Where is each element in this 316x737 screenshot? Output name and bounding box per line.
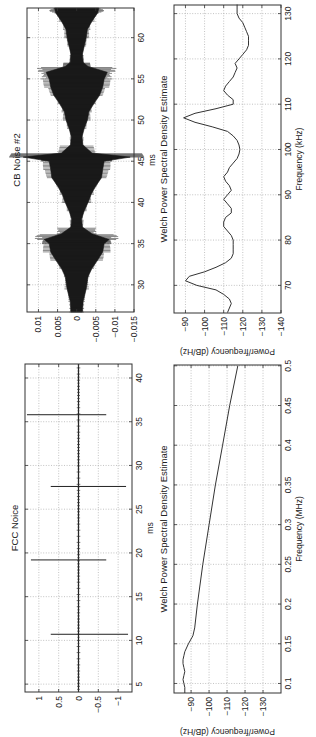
- x-axis-label: ms: [145, 522, 155, 533]
- axes-frame: [174, 5, 281, 313]
- x-tick-label: 10: [134, 635, 144, 645]
- x-tick-label: 110: [283, 97, 293, 111]
- x-tick-label: 35: [136, 239, 146, 249]
- x-tick-label: 90: [283, 190, 293, 200]
- y-tick-label: −0.01: [110, 316, 120, 338]
- panel-cb-noise-psd: 708090100110120130−90−100−110−120−130−14…: [158, 5, 304, 358]
- x-tick-label: 0.35: [283, 476, 293, 493]
- panel-cb-noise-time: 303540455055600.010.0050−0.005−0.01−0.01…: [9, 8, 157, 342]
- x-tick-label: 40: [136, 197, 146, 207]
- panel-fcc-noise-psd: 0.10.150.20.250.30.350.40.450.5−90−100−1…: [158, 360, 304, 737]
- y-tick-label: −100: [204, 697, 214, 716]
- y-tick-label: −140: [276, 317, 286, 336]
- x-tick-label: 0.1: [283, 677, 293, 689]
- y-tick-label: 0: [74, 696, 84, 701]
- y-tick-label: −110: [219, 317, 229, 336]
- x-axis-label: Frequency (MHz): [294, 496, 304, 562]
- y-tick-label: −0.005: [91, 316, 101, 343]
- x-tick-label: 30: [134, 460, 144, 470]
- x-tick-label: 0.4: [283, 439, 293, 451]
- x-tick-label: 0.5: [283, 360, 293, 372]
- x-tick-label: 5: [134, 681, 144, 686]
- y-tick-label: −130: [257, 317, 267, 336]
- x-tick-label: 70: [283, 280, 293, 290]
- y-tick-label: −100: [200, 317, 210, 336]
- x-tick-label: 30: [136, 280, 146, 290]
- x-tick-label: 25: [134, 504, 144, 514]
- chart-title: FCC Noice: [9, 505, 20, 551]
- y-tick-label: −90: [180, 317, 190, 332]
- y-tick-label: 0.005: [53, 316, 63, 338]
- x-tick-label: 0.3: [283, 518, 293, 530]
- x-tick-label: 0.45: [283, 397, 293, 414]
- y-axis-label: Power/frequency (dB/Hz): [180, 347, 275, 357]
- x-tick-label: 55: [136, 74, 146, 84]
- x-tick-label: 40: [134, 373, 144, 383]
- x-tick-label: 0.15: [283, 635, 293, 652]
- x-axis-label: Frequency (kHz): [294, 127, 304, 190]
- y-axis-label: Power/frequency (dB/Hz): [180, 727, 275, 737]
- x-tick-label: 0.2: [283, 598, 293, 610]
- y-tick-label: 0.5: [54, 696, 64, 708]
- x-tick-label: 80: [283, 235, 293, 245]
- baseline-noise-ticks: [77, 365, 81, 690]
- x-tick-label: 0.25: [283, 556, 293, 573]
- y-tick-label: −120: [238, 317, 248, 336]
- chart-title: CB Noise #2: [11, 133, 22, 186]
- y-tick-label: 0: [72, 316, 82, 321]
- y-tick-label: 1: [34, 696, 44, 701]
- x-tick-label: 50: [136, 115, 146, 125]
- x-axis-label: ms: [147, 154, 157, 165]
- x-tick-label: 120: [283, 52, 293, 66]
- figure-canvas: 303540455055600.010.0050−0.005−0.01−0.01…: [0, 0, 316, 737]
- y-tick-label: −110: [222, 697, 232, 716]
- y-tick-label: 0.01: [33, 316, 43, 333]
- y-tick-label: −120: [240, 697, 250, 716]
- x-tick-label: 20: [134, 548, 144, 558]
- x-tick-label: 45: [136, 156, 146, 166]
- psd-curve: [184, 5, 249, 313]
- y-tick-label: −130: [258, 697, 268, 716]
- panel-fcc-noise-time: 51015202530354010.50−0.5−1FCC Noicems: [9, 364, 155, 713]
- x-tick-label: 35: [134, 417, 144, 427]
- y-tick-label: −0.015: [129, 316, 139, 343]
- y-tick-label: −90: [186, 697, 196, 712]
- chart-title: Welch Power Spectral Density Estimate: [158, 75, 169, 242]
- x-tick-label: 100: [283, 142, 293, 156]
- x-tick-label: 130: [283, 6, 293, 20]
- x-tick-label: 15: [134, 592, 144, 602]
- chart-title: Welch Power Spectral Density Estimate: [158, 445, 169, 612]
- y-tick-label: −0.5: [93, 696, 103, 713]
- x-tick-label: 60: [136, 33, 146, 43]
- y-tick-label: −1: [113, 696, 123, 706]
